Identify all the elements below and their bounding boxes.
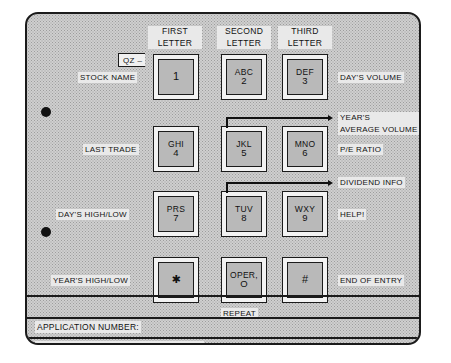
key-3[interactable]: DEF 3 bbox=[282, 54, 328, 100]
key-4[interactable]: GHI 4 bbox=[153, 126, 199, 172]
key-8[interactable]: TUV 8 bbox=[221, 191, 267, 237]
indicator-dot-upper bbox=[41, 107, 51, 117]
key-9-digit: 9 bbox=[302, 213, 307, 223]
label-days-volume: DAY'S VOLUME bbox=[338, 72, 404, 83]
label-days-high-low: DAY'S HIGH/LOW bbox=[56, 209, 129, 220]
divider-top bbox=[27, 295, 419, 297]
label-stock-name: STOCK NAME bbox=[78, 72, 137, 83]
key-6-cap: MNO 6 bbox=[287, 131, 323, 167]
field-telephone-number-of-computer[interactable]: TELEPHONE NUMBER OF COMPUTER: bbox=[35, 341, 204, 345]
key-1-digit: 1 bbox=[173, 71, 179, 83]
key-5-cap: JKL 5 bbox=[226, 131, 262, 167]
key-pound-cap: # bbox=[287, 262, 323, 298]
key-1-cap: 1 bbox=[158, 59, 194, 95]
column-header-second-letter-line1: SECOND bbox=[217, 26, 271, 38]
key-5[interactable]: JKL 5 bbox=[221, 126, 267, 172]
indicator-dot-lower bbox=[41, 227, 51, 237]
field-application-number[interactable]: APPLICATION NUMBER: bbox=[35, 321, 141, 333]
label-last-trade: LAST TRADE bbox=[83, 144, 139, 155]
key-2-cap: ABC 2 bbox=[226, 59, 262, 95]
key-7-cap: PRS 7 bbox=[158, 196, 194, 232]
label-years-average-volume-line2: AVERAGE VOLUME bbox=[340, 124, 418, 136]
key-4-digit: 4 bbox=[173, 148, 178, 158]
label-years-average-volume-line1: YEAR'S bbox=[340, 112, 418, 124]
key-3-digit: 3 bbox=[302, 76, 307, 86]
qz-indicator-box: QZ – bbox=[118, 53, 145, 67]
key-6[interactable]: MNO 6 bbox=[282, 126, 328, 172]
key-pound-digit: # bbox=[302, 274, 308, 286]
column-header-third-letter-line2: LETTER bbox=[278, 38, 332, 50]
column-header-first-letter-line2: LETTER bbox=[148, 38, 202, 50]
divider-middle bbox=[27, 317, 419, 319]
column-header-second-letter-line2: LETTER bbox=[217, 38, 271, 50]
key-3-cap: DEF 3 bbox=[287, 59, 323, 95]
column-header-second-letter: SECOND LETTER bbox=[217, 26, 271, 49]
label-years-average-volume: YEAR'S AVERAGE VOLUME bbox=[338, 112, 420, 135]
leader-line-years-average-volume bbox=[226, 115, 336, 128]
key-8-digit: 8 bbox=[241, 213, 246, 223]
column-header-first-letter: FIRST LETTER bbox=[148, 26, 202, 49]
key-2[interactable]: ABC 2 bbox=[221, 54, 267, 100]
key-6-digit: 6 bbox=[302, 148, 307, 158]
key-8-cap: TUV 8 bbox=[226, 196, 262, 232]
key-1[interactable]: 1 bbox=[153, 54, 199, 100]
key-star-cap: ✱ bbox=[158, 262, 194, 298]
label-pe-ratio: P/E RATIO bbox=[338, 144, 383, 155]
label-help: HELP! bbox=[338, 209, 366, 220]
label-years-high-low: YEAR'S HIGH/LOW bbox=[51, 275, 130, 286]
key-star-digit: ✱ bbox=[171, 274, 180, 286]
divider-bottom bbox=[27, 337, 419, 339]
key-2-digit: 2 bbox=[241, 76, 246, 86]
key-7-digit: 7 bbox=[173, 213, 178, 223]
key-9-cap: WXY 9 bbox=[287, 196, 323, 232]
leader-line-dividend-info bbox=[226, 180, 336, 193]
label-dividend-info: DIVIDEND INFO bbox=[338, 177, 405, 188]
key-oper-zero-digit: O bbox=[240, 279, 247, 289]
key-oper-zero-cap: OPER, O bbox=[226, 262, 262, 298]
column-header-first-letter-line1: FIRST bbox=[148, 26, 202, 38]
keypad-panel: FIRST LETTER SECOND LETTER THIRD LETTER … bbox=[25, 12, 421, 345]
key-7[interactable]: PRS 7 bbox=[153, 191, 199, 237]
key-9[interactable]: WXY 9 bbox=[282, 191, 328, 237]
column-header-third-letter-line1: THIRD bbox=[278, 26, 332, 38]
key-4-cap: GHI 4 bbox=[158, 131, 194, 167]
column-header-third-letter: THIRD LETTER bbox=[278, 26, 332, 49]
key-5-digit: 5 bbox=[241, 148, 246, 158]
label-end-of-entry: END OF ENTRY bbox=[338, 275, 404, 286]
